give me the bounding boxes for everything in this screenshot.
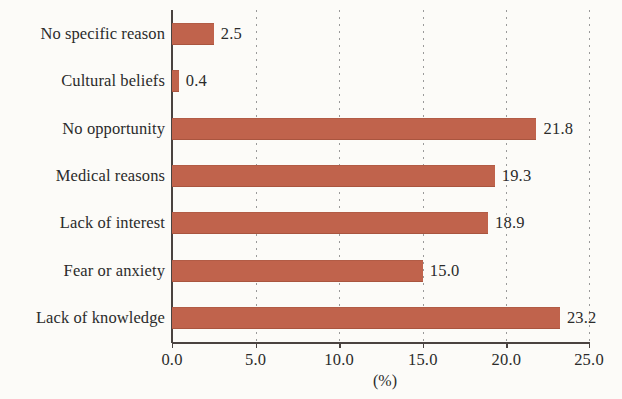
bar-row: Cultural beliefs 0.4	[0, 57, 622, 104]
bar	[172, 70, 179, 92]
bar	[172, 165, 495, 187]
bar-row: Medical reasons 19.3	[0, 152, 622, 199]
bar-group: 19.3	[172, 165, 531, 187]
bar-value-label: 18.9	[495, 213, 525, 233]
bar-value-label: 2.5	[221, 24, 242, 44]
x-tick-label: 10.0	[324, 350, 354, 370]
x-tick-mark-15	[423, 342, 424, 348]
bar-row: No opportunity 21.8	[0, 105, 622, 152]
x-tick-label: 0.0	[161, 350, 182, 370]
category-label: Medical reasons	[56, 166, 172, 186]
bar-value-label: 0.4	[186, 71, 207, 91]
bar	[172, 260, 423, 282]
bar-group: 18.9	[172, 212, 525, 234]
bar-row: No specific reason 2.5	[0, 10, 622, 57]
x-tick-mark-20	[506, 342, 507, 348]
x-axis-title: (%)	[373, 372, 397, 390]
x-tick-label: 25.0	[574, 350, 604, 370]
x-tick-mark-0	[172, 342, 173, 348]
category-label: No specific reason	[40, 24, 172, 44]
bar-value-label: 19.3	[502, 166, 532, 186]
bar-row: Fear or anxiety 15.0	[0, 247, 622, 294]
bar-value-label: 23.2	[567, 308, 597, 328]
bar-group: 15.0	[172, 260, 459, 282]
x-tick-mark-25	[589, 342, 590, 348]
bar-row: Lack of knowledge 23.2	[0, 295, 622, 342]
x-tick-label: 20.0	[492, 350, 522, 370]
x-axis-line	[172, 342, 590, 344]
bar-value-label: 15.0	[430, 261, 460, 281]
category-label: Lack of knowledge	[36, 308, 172, 328]
bar-group: 21.8	[172, 118, 573, 140]
bar	[172, 307, 560, 329]
bar	[172, 23, 214, 45]
category-label: Fear or anxiety	[64, 261, 172, 281]
category-label: Lack of interest	[60, 213, 172, 233]
bar-row: Lack of interest 18.9	[0, 200, 622, 247]
bar-group: 23.2	[172, 307, 597, 329]
x-tick-label: 15.0	[408, 350, 438, 370]
x-tick-label: 5.0	[245, 350, 266, 370]
bar-chart: No specific reason 2.5 Cultural beliefs …	[0, 0, 622, 399]
category-label: Cultural beliefs	[61, 71, 172, 91]
bar-value-label: 21.8	[543, 119, 573, 139]
bar-group: 0.4	[172, 70, 207, 92]
x-tick-mark-10	[339, 342, 340, 348]
category-label: No opportunity	[62, 119, 172, 139]
bar	[172, 118, 536, 140]
bar-group: 2.5	[172, 23, 242, 45]
bar	[172, 212, 488, 234]
x-tick-mark-5	[256, 342, 257, 348]
